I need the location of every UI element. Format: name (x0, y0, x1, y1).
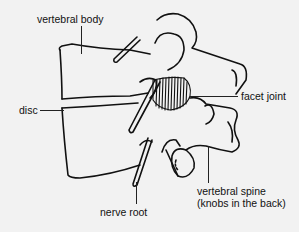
lower-vertebral-body (62, 108, 140, 178)
lower-nerve-root (133, 138, 152, 186)
label-vertebral-body: vertebral body (37, 13, 104, 25)
label-disc: disc (19, 104, 38, 116)
leader-facet-joint (190, 96, 238, 97)
disc-shape (62, 103, 138, 108)
leader-nerve-root (136, 182, 137, 204)
label-vertebral-spine-line2: (knobs in the back) (197, 197, 286, 209)
label-vertebral-spine-line1: vertebral spine (197, 185, 286, 197)
leader-disc (40, 110, 64, 111)
upper-vertebral-body (59, 44, 150, 54)
facet-joint-hatching (153, 77, 190, 110)
label-facet-joint: facet joint (241, 90, 286, 102)
leader-vertebral-spine (208, 146, 209, 183)
spinous-knob (172, 149, 195, 177)
label-vertebral-spine: vertebral spine (knobs in the back) (197, 185, 286, 209)
leader-vertebral-body (81, 26, 82, 54)
label-nerve-root: nerve root (100, 206, 147, 218)
